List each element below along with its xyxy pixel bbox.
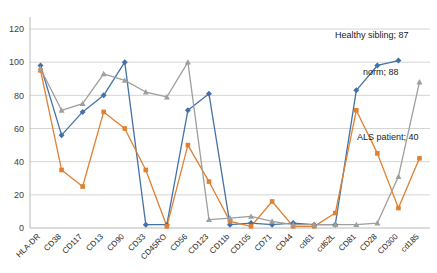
data-point-marker — [143, 168, 148, 173]
data-point-marker — [59, 168, 64, 173]
data-point-marker — [333, 211, 338, 216]
y-axis-tick-label: 60 — [14, 124, 24, 134]
data-point-marker — [396, 206, 401, 211]
series-end-label: norm; 88 — [363, 67, 399, 77]
series-end-label: Healthy sibling; 87 — [335, 30, 409, 40]
series-end-label: ALS patient; 40 — [357, 132, 419, 142]
data-point-marker — [101, 110, 106, 115]
data-point-marker — [249, 224, 254, 229]
y-axis-tick-label: 120 — [9, 24, 24, 34]
data-point-marker — [354, 108, 359, 113]
y-axis-tick-label: 100 — [9, 57, 24, 67]
data-point-marker — [165, 224, 170, 229]
data-point-marker — [122, 126, 127, 131]
y-axis-tick-label: 40 — [14, 157, 24, 167]
data-point-marker — [270, 199, 275, 204]
data-point-marker — [417, 156, 422, 161]
data-point-marker — [80, 184, 85, 189]
line-chart: 020406080100120 HLA-DRCD38CD117CD13CD90C… — [0, 0, 437, 273]
chart-container: 020406080100120 HLA-DRCD38CD117CD13CD90C… — [0, 0, 437, 273]
data-point-marker — [207, 179, 212, 184]
y-axis-tick-label: 80 — [14, 91, 24, 101]
data-point-marker — [186, 143, 191, 148]
y-axis-tick-label: 20 — [14, 190, 24, 200]
y-axis-tick-label: 0 — [19, 223, 24, 233]
data-point-marker — [375, 151, 380, 156]
